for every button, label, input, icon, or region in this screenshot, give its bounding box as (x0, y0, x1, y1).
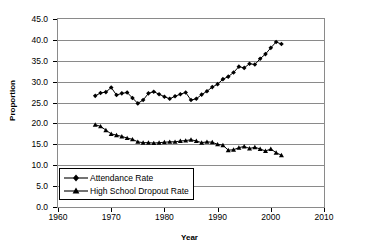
data-point-marker (93, 122, 98, 126)
y-axis-tick-label: 45.0 (8, 15, 48, 23)
data-point-marker (162, 94, 167, 99)
series-line (95, 125, 281, 156)
legend-item-high-school-dropout-rate: High School Dropout Rate (63, 184, 189, 197)
legend-label: High School Dropout Rate (89, 186, 189, 196)
x-axis-tick-label: 1990 (198, 212, 238, 222)
triangle-marker-icon (63, 185, 89, 197)
legend-label: Attendance Rate (89, 173, 153, 183)
data-point-marker (157, 92, 162, 97)
data-point-marker (167, 97, 172, 102)
legend-item-attendance-rate: Attendance Rate (63, 171, 189, 184)
data-point-marker (279, 42, 284, 47)
y-axis-tick-label: 5.0 (8, 182, 48, 190)
data-point-marker (252, 145, 257, 149)
x-axis-tick-label: 2010 (304, 212, 344, 222)
x-axis-title: Year (0, 233, 379, 242)
y-axis-tick-label: 15.0 (8, 140, 48, 148)
series-high-school-dropout-rate (93, 122, 284, 157)
x-axis-tick-label: 1980 (144, 212, 184, 222)
data-point-marker (120, 91, 125, 96)
y-axis-tick-label: 20.0 (8, 119, 48, 127)
data-point-marker (178, 92, 183, 97)
chart-legend: Attendance Rate High School Dropout Rate (59, 168, 194, 200)
y-axis-tick-label: 25.0 (8, 99, 48, 107)
data-point-marker (279, 153, 284, 157)
x-axis-tick-label: 2000 (251, 212, 291, 222)
diamond-marker-icon (63, 172, 89, 184)
x-axis-tick-label: 1960 (38, 212, 78, 222)
data-point-marker (268, 147, 273, 151)
data-point-marker (98, 91, 103, 96)
data-point-marker (242, 144, 247, 148)
series-attendance-rate (93, 40, 284, 106)
data-point-marker (151, 89, 156, 94)
y-axis-tick-label: 10.0 (8, 161, 48, 169)
data-point-marker (93, 94, 98, 99)
data-point-marker (173, 94, 178, 99)
y-axis-tick-label: 35.0 (8, 57, 48, 65)
chart-container: Proportion 0.05.010.015.020.025.030.035.… (0, 0, 379, 250)
y-axis-tick-label: 0.0 (8, 203, 48, 211)
x-axis-tick-label: 1970 (91, 212, 131, 222)
y-axis-tick-label: 30.0 (8, 78, 48, 86)
y-axis-tick-label: 40.0 (8, 36, 48, 44)
